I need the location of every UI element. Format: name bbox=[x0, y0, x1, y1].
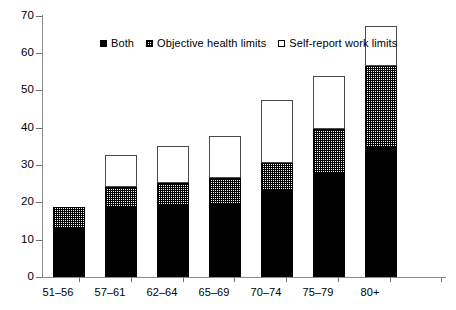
x-tick-label-75-79: 75–79 bbox=[291, 286, 345, 298]
bar-segment-self-report-work-limits bbox=[209, 136, 241, 178]
x-tick-label-57-61: 57–61 bbox=[83, 286, 137, 298]
bar-segment-objective-health-limits bbox=[261, 163, 293, 192]
legend-item-self-report-work-limits[interactable]: Self-report work limits bbox=[278, 37, 397, 49]
bar-group-57-61[interactable] bbox=[105, 155, 137, 277]
x-tick-mark-1 bbox=[79, 278, 80, 282]
bar-segment-both bbox=[365, 148, 397, 277]
x-tick-label-62-64: 62–64 bbox=[135, 286, 189, 298]
bar-group-75-79[interactable] bbox=[313, 76, 345, 277]
y-axis-labels: 70 60 50 40 30 20 10 0 bbox=[0, 0, 34, 310]
x-tick-mark-3 bbox=[183, 278, 184, 282]
y-tick-label-20: 20 bbox=[0, 196, 34, 208]
y-tick-label-10: 10 bbox=[0, 234, 34, 246]
y-tick-label-40: 40 bbox=[0, 122, 34, 134]
bar-segment-objective-health-limits bbox=[209, 178, 241, 205]
bar-segment-self-report-work-limits bbox=[157, 146, 189, 183]
bar-segment-both bbox=[105, 208, 137, 277]
bar-segment-both bbox=[157, 206, 189, 277]
legend-item-both[interactable]: Both bbox=[100, 37, 134, 49]
bar-segment-both bbox=[261, 191, 293, 277]
x-tick-label-80-plus: 80+ bbox=[343, 286, 397, 298]
legend-swatch-objective-icon bbox=[146, 40, 153, 47]
bar-group-80-plus[interactable] bbox=[365, 26, 397, 277]
legend-swatch-both-icon bbox=[100, 40, 107, 47]
bar-segment-objective-health-limits bbox=[365, 66, 397, 148]
bar-segment-self-report-work-limits bbox=[105, 155, 137, 187]
x-tick-mark-8 bbox=[441, 278, 442, 282]
bar-segment-self-report-work-limits bbox=[261, 100, 293, 162]
x-tick-mark-6 bbox=[338, 278, 339, 282]
legend-label-both: Both bbox=[111, 37, 134, 49]
x-tick-label-70-74: 70–74 bbox=[239, 286, 293, 298]
legend-label-objective-health-limits: Objective health limits bbox=[157, 37, 266, 49]
chart-legend: Both Objective health limits Self-report… bbox=[100, 37, 397, 49]
legend-swatch-self-report-icon bbox=[278, 40, 285, 47]
y-tick-label-60: 60 bbox=[0, 47, 34, 59]
x-axis-line bbox=[42, 277, 446, 278]
x-tick-mark-5 bbox=[286, 278, 287, 282]
legend-item-objective-health-limits[interactable]: Objective health limits bbox=[146, 37, 266, 49]
y-tick-label-0: 0 bbox=[0, 271, 34, 283]
bar-segment-both bbox=[209, 205, 241, 277]
legend-label-self-report-work-limits: Self-report work limits bbox=[289, 37, 397, 49]
x-tick-label-65-69: 65–69 bbox=[187, 286, 241, 298]
bar-chart: 70 60 50 40 30 20 10 0 bbox=[0, 0, 456, 310]
y-tick-label-30: 30 bbox=[0, 159, 34, 171]
bar-group-65-69[interactable] bbox=[209, 136, 241, 277]
x-tick-mark-7 bbox=[390, 278, 391, 282]
bar-segment-both bbox=[53, 229, 85, 278]
bar-group-62-64[interactable] bbox=[157, 146, 189, 277]
bar-segment-both bbox=[313, 174, 345, 277]
bar-segment-objective-health-limits bbox=[105, 187, 137, 208]
y-tick-label-70: 70 bbox=[0, 10, 34, 22]
bar-group-70-74[interactable] bbox=[261, 100, 293, 277]
y-tick-label-50: 50 bbox=[0, 84, 34, 96]
plot-area bbox=[43, 16, 445, 277]
bar-group-51-56[interactable] bbox=[53, 207, 85, 277]
bar-segment-objective-health-limits bbox=[313, 129, 345, 174]
x-tick-mark-2 bbox=[131, 278, 132, 282]
bar-segment-objective-health-limits bbox=[53, 207, 85, 229]
x-axis-labels: 51–56 57–61 62–64 65–69 70–74 75–79 80+ bbox=[0, 286, 456, 302]
bar-segment-self-report-work-limits bbox=[313, 76, 345, 129]
x-tick-label-51-56: 51–56 bbox=[31, 286, 85, 298]
bar-segment-objective-health-limits bbox=[157, 183, 189, 206]
x-tick-mark-4 bbox=[234, 278, 235, 282]
